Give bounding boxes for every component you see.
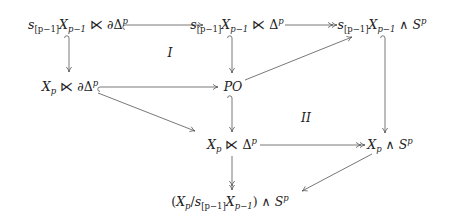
delta-superscript: p xyxy=(93,78,98,88)
pushout-label: PO xyxy=(224,79,243,94)
arrow-c-g xyxy=(381,36,388,133)
arrow-shaft xyxy=(98,93,195,131)
x-symbol: X xyxy=(59,17,68,32)
arrow-shaft xyxy=(302,154,372,191)
x-subscript: p xyxy=(51,86,56,96)
arrow-f-g xyxy=(260,142,365,147)
x-symbol: X xyxy=(368,17,377,32)
x-symbol: X xyxy=(176,194,185,209)
s-subscript: [p−1] xyxy=(201,201,226,211)
hook-tail xyxy=(381,36,385,38)
smash-op: ∧ xyxy=(386,137,395,152)
sphere-superscript: p xyxy=(407,136,412,146)
arrow-e-f xyxy=(228,96,235,132)
x-symbol: X xyxy=(221,17,230,32)
s-subscript: [p−1] xyxy=(35,24,60,34)
node-D: Xp ⋉ ∂Δp xyxy=(42,81,98,94)
x-symbol: X xyxy=(367,137,376,152)
hook-tail xyxy=(228,36,232,38)
delta-superscript: p xyxy=(278,16,283,26)
arrow-f-h xyxy=(229,156,234,190)
node-G: Xp ∧ Sp xyxy=(367,139,413,152)
arrow-shaft xyxy=(245,37,352,80)
x-symbol: X xyxy=(207,137,216,152)
node-F: Xp ⋉ Δp xyxy=(207,139,257,152)
hook-tail xyxy=(65,36,69,38)
x-subscript: p−1 xyxy=(235,201,253,211)
close-paren: ) xyxy=(253,194,258,209)
semidirect-op: ⋉ xyxy=(225,137,238,152)
delta-symbol: Δ xyxy=(269,17,278,32)
x-symbol: X xyxy=(42,79,51,94)
smash-op: ∧ xyxy=(262,194,271,209)
sphere-symbol: S xyxy=(275,194,284,209)
x-subscript: p−1 xyxy=(377,24,395,34)
sphere-symbol: S xyxy=(399,137,408,152)
delta-superscript: p xyxy=(122,16,127,26)
node-A: s[p−1]Xp−1 ⋉ ∂Δp xyxy=(28,19,128,32)
semidirect-op: ⋉ xyxy=(60,79,73,94)
x-subscript: p xyxy=(216,144,221,154)
delta-symbol: Δ xyxy=(84,79,93,94)
arrow-g-h xyxy=(302,154,372,191)
region-label-I: I xyxy=(168,45,173,60)
x-subscript: p xyxy=(376,144,381,154)
sphere-superscript: p xyxy=(283,193,288,203)
arrow-d-e xyxy=(98,84,218,91)
sphere-symbol: S xyxy=(413,17,422,32)
arrow-e-c xyxy=(245,36,352,80)
node-C: s[p−1]Xp−1 ∧ Sp xyxy=(337,19,426,32)
arrow-a-d xyxy=(65,36,72,72)
smash-op: ∧ xyxy=(399,17,408,32)
delta-superscript: p xyxy=(251,136,256,146)
s-subscript: [p−1] xyxy=(344,24,369,34)
node-B: s[p−1]Xp−1 ⋉ Δp xyxy=(190,19,283,32)
arrow-b-c xyxy=(285,22,337,27)
node-H: (Xp/s[p−1]Xp−1) ∧ Sp xyxy=(171,196,288,209)
delta-symbol: Δ xyxy=(242,137,251,152)
s-subscript: [p−1] xyxy=(197,24,222,34)
arrow-d-f xyxy=(98,93,195,132)
x-subscript: p−1 xyxy=(230,24,248,34)
semidirect-op: ⋉ xyxy=(252,17,265,32)
region-label-II: II xyxy=(301,110,311,125)
semidirect-op: ⋉ xyxy=(90,17,103,32)
sphere-superscript: p xyxy=(421,16,426,26)
hook-tail xyxy=(228,96,232,98)
arrow-b-e xyxy=(228,36,235,73)
x-subscript: p−1 xyxy=(68,24,86,34)
node-E-pushout: PO xyxy=(224,81,243,94)
